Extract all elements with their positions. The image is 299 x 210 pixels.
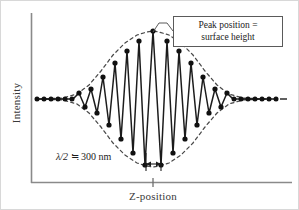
x-axis-label: Z-position	[105, 190, 201, 202]
period-symbol: λ/2	[56, 151, 68, 162]
callout-line-1: Peak position =	[198, 20, 257, 31]
callout-line-2: surface height	[201, 32, 255, 43]
peak-position-callout: Peak position = surface height	[173, 16, 283, 47]
period-relation-symbol: ≒	[71, 151, 79, 162]
interference-signal-curve	[73, 31, 233, 165]
period-annotation-label: λ/2 ≒ 300 nm	[56, 151, 111, 162]
y-axis-label: Intensity	[10, 71, 22, 135]
callout-leader-line	[153, 23, 173, 32]
period-value: 300 nm	[81, 151, 111, 162]
interferogram-figure: Intensity Z-position Peak position = sur…	[0, 0, 299, 210]
